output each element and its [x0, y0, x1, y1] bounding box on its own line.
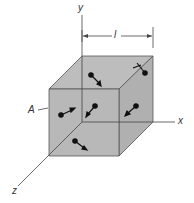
face-a-pointer: [38, 108, 48, 110]
dimension-arrow-left: [83, 34, 88, 38]
x-axis-label: x: [178, 115, 183, 126]
dimension-arrow-right: [147, 34, 152, 38]
face-a-label: A: [28, 104, 35, 115]
z-axis-label: z: [12, 185, 17, 196]
cube-diagram: [0, 0, 194, 203]
y-axis-label: y: [78, 2, 83, 13]
edge-length-label: l: [114, 29, 116, 40]
